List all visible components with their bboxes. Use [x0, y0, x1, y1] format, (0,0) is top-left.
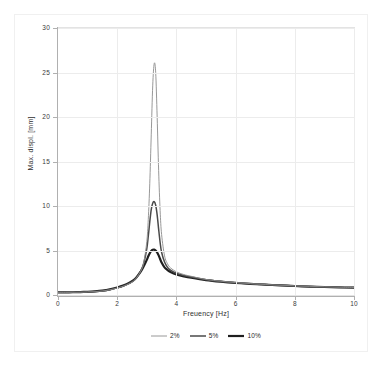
series-line-2pct — [58, 63, 354, 293]
chart-legend: 2%5%10% — [57, 332, 355, 339]
y-tick-label: 25 — [20, 69, 50, 76]
x-tick-label: 2 — [105, 300, 129, 307]
legend-item-10pct[interactable]: 10% — [228, 332, 261, 339]
legend-item-5pct[interactable]: 5% — [190, 332, 219, 339]
y-tick-label: 30 — [20, 24, 50, 31]
legend-item-2pct[interactable]: 2% — [151, 332, 180, 339]
legend-label: 2% — [170, 332, 180, 339]
y-tick-label: 10 — [20, 202, 50, 209]
x-tick-label: 0 — [46, 300, 70, 307]
legend-swatch-icon — [228, 333, 244, 339]
x-axis-line — [57, 296, 355, 297]
gridline-vertical — [354, 28, 355, 295]
y-tick-label: 0 — [20, 291, 50, 298]
x-tick-label: 10 — [342, 300, 366, 307]
y-axis-label: Max. displ. [mm] — [27, 84, 34, 204]
y-tick-label: 5 — [20, 247, 50, 254]
gridline-horizontal — [58, 73, 354, 74]
chart-figure: Max. displ. [mm] 051015202530 0246810 Fr… — [0, 0, 383, 368]
legend-label: 10% — [247, 332, 261, 339]
x-tick-label: 8 — [283, 300, 307, 307]
legend-label: 5% — [209, 332, 219, 339]
gridline-horizontal — [58, 206, 354, 207]
y-tick-label: 15 — [20, 158, 50, 165]
x-tick-label: 4 — [164, 300, 188, 307]
series-line-5pct — [58, 201, 354, 292]
legend-swatch-icon — [151, 333, 167, 339]
x-axis-label: Freuency [Hz] — [57, 310, 355, 317]
gridline-horizontal — [58, 251, 354, 252]
gridline-horizontal — [58, 28, 354, 29]
gridline-horizontal — [58, 117, 354, 118]
gridline-horizontal — [58, 162, 354, 163]
y-axis-line — [57, 27, 58, 297]
legend-swatch-icon — [190, 333, 206, 339]
x-tick-label: 6 — [224, 300, 248, 307]
y-tick-label: 20 — [20, 113, 50, 120]
plot-area — [57, 27, 355, 296]
